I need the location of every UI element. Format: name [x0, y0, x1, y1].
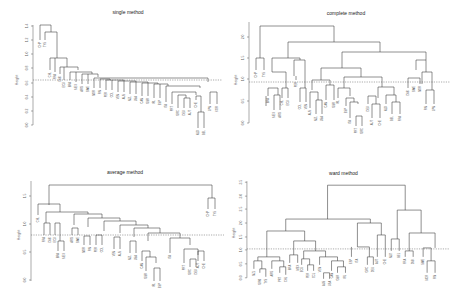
svg-text:FIN: FIN	[88, 247, 92, 251]
average-method-plot: average method Height 0.0 0.5 1.0 1.5	[0, 153, 226, 307]
dendrogram-branches	[38, 185, 215, 281]
svg-text:FIN: FIN	[424, 106, 428, 110]
svg-text:CHP: CHP	[206, 211, 210, 217]
svg-text:DNK: DNK	[411, 259, 415, 265]
svg-text:GRM: GRM	[258, 279, 262, 285]
svg-text:ARG: ARG	[270, 271, 274, 277]
svg-text:AUS: AUS	[122, 94, 126, 100]
svg-text:DEU: DEU	[366, 106, 370, 112]
svg-text:FIN: FIN	[98, 90, 102, 94]
svg-text:AUT: AUT	[375, 258, 379, 264]
svg-text:3.5: 3.5	[239, 180, 243, 185]
svg-text:0.5: 0.5	[23, 250, 27, 255]
svg-text:CHP: CHP	[38, 42, 42, 48]
svg-text:PER: PER	[294, 82, 298, 87]
leaf-labels: CHP TYS BRA MEX ARG CHL ECU PER COL VEN …	[254, 72, 436, 134]
svg-text:CHL: CHL	[36, 216, 40, 222]
svg-text:FRA: FRA	[403, 259, 407, 264]
svg-text:PRT: PRT	[170, 106, 174, 112]
leaf-labels: CHL FRA DNK ECU BRA MEX ARG SWE NOR FIN …	[36, 211, 217, 288]
svg-text:GRC: GRC	[176, 110, 180, 116]
svg-text:SWE: SWE	[86, 86, 90, 92]
svg-text:1.0: 1.0	[25, 52, 29, 57]
svg-text:1.0: 1.0	[239, 247, 243, 252]
svg-text:MEX: MEX	[62, 253, 66, 259]
svg-text:ITA: ITA	[164, 104, 168, 108]
svg-text:CAN: CAN	[140, 98, 144, 104]
svg-text:AUS: AUS	[322, 281, 326, 287]
single-method-plot: single method Height 0.0 0.2 0.4 0.6 0.8…	[0, 0, 226, 153]
single-method-dendrogram: single method Height 0.0 0.2 0.4 0.6 0.8…	[0, 0, 226, 153]
svg-text:FRA: FRA	[42, 237, 46, 242]
svg-text:CHP: CHP	[254, 72, 258, 78]
svg-text:NZL: NZL	[252, 270, 256, 275]
svg-text:0.5: 0.5	[241, 99, 245, 104]
svg-text:AUT: AUT	[188, 110, 192, 116]
svg-text:1.0: 1.0	[241, 77, 245, 82]
svg-text:SWE: SWE	[412, 86, 416, 92]
svg-text:DNK: DNK	[48, 237, 52, 243]
y-ticks: 0.0 0.5 1.0 1.5 2.0	[241, 35, 249, 126]
svg-text:ECU: ECU	[53, 237, 57, 243]
svg-text:FRA: FRA	[398, 116, 402, 121]
svg-text:JPN: JPN	[432, 106, 436, 111]
svg-text:CHE: CHE	[202, 263, 206, 269]
svg-text:TYS: TYS	[262, 72, 266, 77]
average-method-dendrogram: average method Height 0.0 0.5 1.0 1.5	[0, 153, 226, 307]
svg-text:TYS: TYS	[43, 42, 47, 47]
svg-text:DEU: DEU	[194, 269, 198, 275]
svg-text:1.0: 1.0	[23, 222, 27, 227]
svg-text:NOR: NOR	[82, 247, 86, 253]
svg-text:SWE: SWE	[421, 259, 425, 265]
svg-text:IRL: IRL	[152, 99, 156, 104]
svg-text:NLD: NLD	[384, 106, 388, 111]
svg-text:ESP: ESP	[158, 100, 162, 105]
svg-text:GRC: GRC	[365, 267, 369, 273]
svg-text:0.4: 0.4	[25, 95, 29, 100]
svg-text:NOR: NOR	[92, 90, 96, 96]
svg-text:COL: COL	[312, 272, 316, 278]
svg-text:IRL: IRL	[343, 274, 347, 279]
y-axis-label: Height	[232, 228, 236, 238]
svg-text:DNK: DNK	[58, 76, 62, 82]
svg-text:KOR: KOR	[215, 106, 219, 112]
svg-text:DEU: DEU	[371, 267, 375, 273]
svg-text:0.8: 0.8	[25, 66, 29, 71]
svg-text:MEX: MEX	[296, 265, 300, 271]
svg-text:GBR: GBR	[336, 275, 340, 281]
svg-text:0.0: 0.0	[239, 275, 243, 280]
svg-text:USA: USA	[134, 96, 138, 102]
complete-method-plot: complete method Height 0.0 0.5 1.0 1.5 2…	[226, 0, 452, 153]
svg-text:NZL: NZL	[314, 115, 318, 120]
svg-text:AUS: AUS	[118, 251, 122, 257]
svg-text:GRC: GRC	[360, 128, 364, 134]
svg-text:NOR: NOR	[418, 86, 422, 92]
svg-text:0.2: 0.2	[25, 109, 29, 114]
svg-text:ESP: ESP	[158, 283, 162, 288]
svg-text:BEL: BEL	[202, 129, 206, 134]
svg-text:FIN: FIN	[433, 275, 437, 279]
svg-text:3.0: 3.0	[239, 194, 243, 199]
panel-title: ward method	[329, 171, 358, 176]
svg-text:PRT: PRT	[278, 276, 282, 282]
svg-text:FRA: FRA	[53, 74, 57, 79]
svg-text:CAN: CAN	[140, 263, 144, 269]
svg-text:0.0: 0.0	[25, 123, 29, 128]
svg-text:ARG: ARG	[80, 86, 84, 92]
svg-text:0.0: 0.0	[241, 121, 245, 126]
ward-method-dendrogram: ward method Height 0.0 0.5 1.0 1.5 2.0 2…	[226, 153, 452, 307]
y-ticks: 0.0 0.5 1.0 1.5	[23, 194, 31, 283]
svg-text:IRL: IRL	[336, 99, 340, 104]
svg-text:JPN: JPN	[208, 106, 212, 111]
y-axis-label: Height	[15, 75, 19, 85]
svg-text:0.5: 0.5	[239, 261, 243, 266]
y-axis-label: Height	[234, 75, 238, 85]
svg-text:VEN: VEN	[318, 267, 322, 272]
svg-text:CHE: CHE	[383, 259, 387, 265]
svg-text:NLD: NLD	[389, 253, 393, 258]
svg-text:IRL: IRL	[152, 282, 156, 287]
svg-text:BEL: BEL	[397, 252, 401, 257]
svg-text:AUT: AUT	[196, 263, 200, 269]
svg-text:NZL: NZL	[128, 95, 132, 100]
svg-text:CAN: CAN	[330, 273, 334, 279]
